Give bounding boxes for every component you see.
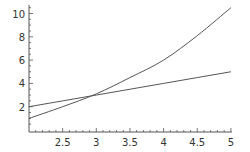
y-tick-label: 10 [12, 9, 25, 20]
line-chart: 2.533.544.55246810 [0, 0, 250, 152]
axes [29, 5, 232, 132]
x-tick-label: 3 [93, 137, 99, 148]
x-tick-label: 5 [228, 137, 234, 148]
x-tick-label: 2.5 [55, 137, 71, 148]
y-tick-label: 6 [19, 55, 25, 66]
y-tick-label: 4 [19, 78, 25, 89]
x-tick-label: 4 [160, 137, 166, 148]
series-line [29, 72, 231, 107]
plot-series [29, 8, 231, 119]
tick-labels: 2.533.544.55246810 [12, 9, 234, 149]
y-tick-label: 2 [19, 102, 25, 113]
y-tick-label: 8 [19, 32, 25, 43]
x-tick-label: 4.5 [189, 137, 205, 148]
x-tick-label: 3.5 [122, 137, 138, 148]
